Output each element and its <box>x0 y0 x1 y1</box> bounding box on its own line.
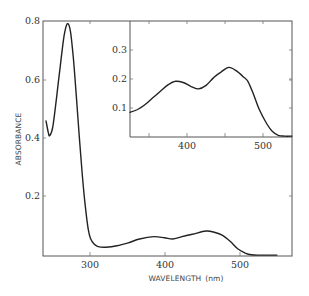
inset-xtick-400: 400 <box>178 140 196 151</box>
main-x-ticks <box>90 21 240 256</box>
xtick-300: 300 <box>81 259 99 270</box>
inset-ytick-0.2: 0.2 <box>112 73 127 84</box>
ytick-0.4: 0.4 <box>25 132 40 143</box>
main-plot-frame <box>43 21 292 256</box>
inset-y-ticks <box>130 50 292 108</box>
inset-ytick-0.3: 0.3 <box>112 44 127 55</box>
y-axis-title: ABSORBANCE <box>14 112 23 165</box>
inset-ytick-0.1: 0.1 <box>112 102 127 113</box>
main-x-tick-labels: 300 400 500 <box>81 259 249 270</box>
ytick-0.6: 0.6 <box>25 74 40 85</box>
main-y-tick-labels: 0.8 0.6 0.4 0.2 <box>25 15 40 201</box>
x-axis-title: WAVELENGTH (nm) <box>149 274 224 283</box>
inset-xtick-500: 500 <box>254 140 272 151</box>
inset-spectrum-curve <box>130 67 292 136</box>
xtick-400: 400 <box>156 259 174 270</box>
inset-x-tick-labels: 400 500 <box>178 140 272 151</box>
inset-y-tick-labels: 0.3 0.2 0.1 <box>112 44 127 113</box>
ytick-0.8: 0.8 <box>25 15 40 26</box>
inset-frame <box>130 21 292 137</box>
main-spectrum-curve <box>46 24 277 255</box>
ytick-0.2: 0.2 <box>25 190 40 201</box>
xtick-500: 500 <box>231 259 249 270</box>
absorbance-chart: 0.8 0.6 0.4 0.2 300 400 500 ABSORBANCE W… <box>0 0 309 296</box>
